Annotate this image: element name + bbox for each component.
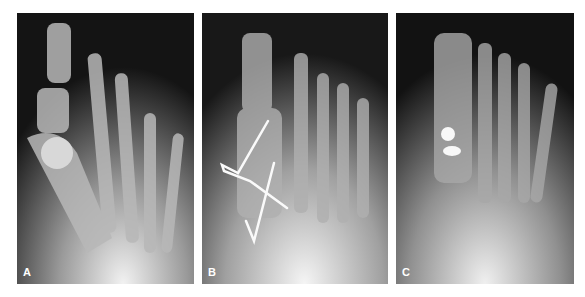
panel-label-c: C [402, 266, 410, 278]
panel-c-radiograph: C [396, 13, 574, 284]
screw-head-1 [441, 127, 455, 141]
panel-label-b: B [208, 266, 216, 278]
panel-a-radiograph: A [17, 13, 194, 284]
panel-label-a: A [23, 266, 31, 278]
panel-b-radiograph: B [202, 13, 388, 284]
foot-xray-image-b [202, 13, 388, 284]
foot-xray-image-a [17, 13, 194, 284]
foot-xray-image-c [396, 13, 574, 284]
screw-head-2 [443, 146, 461, 156]
